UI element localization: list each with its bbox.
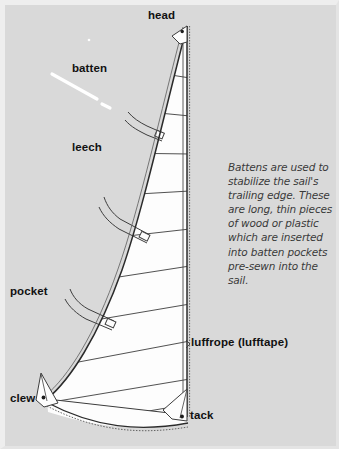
batten-pointer-dot xyxy=(88,39,91,42)
label-luffrope: luffrope (lufftape) xyxy=(191,337,288,349)
clew-grommet xyxy=(42,396,46,400)
label-tack: tack xyxy=(190,410,213,422)
label-head: head xyxy=(148,10,175,22)
tack-grommet xyxy=(180,415,184,419)
label-pocket: pocket xyxy=(10,286,48,298)
head-reinforcement-patch xyxy=(172,26,187,44)
batten-caption-text: Battens are used to stabilize the sail's… xyxy=(228,160,336,287)
head-corner xyxy=(172,26,187,44)
clew-corner xyxy=(36,373,58,407)
label-batten: batten xyxy=(72,63,107,75)
clew-reinforcement-patch xyxy=(36,373,58,407)
label-leech: leech xyxy=(72,142,102,154)
sail-body xyxy=(47,26,187,428)
head-grommet xyxy=(181,30,184,33)
label-clew: clew xyxy=(10,393,35,405)
sail-diagram-figure: head batten leech pocket clew luffrope (… xyxy=(0,0,339,449)
